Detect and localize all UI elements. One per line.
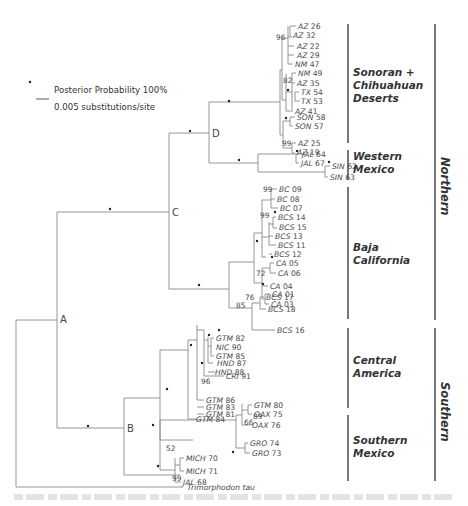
- svg-text:96: 96: [276, 33, 286, 42]
- tip-label: AZ 25: [297, 139, 321, 148]
- tip-label: GTM 80: [254, 401, 283, 410]
- svg-text:Sonoran +ChihuahuanDeserts: Sonoran +ChihuahuanDeserts: [353, 66, 423, 104]
- tip-label: BC 08: [277, 195, 300, 204]
- tip-label: NM 47: [295, 60, 319, 69]
- tip-label: HND 87: [217, 359, 247, 368]
- phylogenetic-tree-figure: Posterior Probability 100% 0.005 substit…: [0, 0, 468, 506]
- legend-scale-label: 0.005 substitutions/site: [54, 102, 155, 112]
- tip-label: SON 58: [297, 113, 326, 122]
- svg-text:99: 99: [282, 139, 292, 148]
- svg-text:52: 52: [166, 444, 175, 453]
- svg-text:SouthernMexico: SouthernMexico: [353, 434, 408, 459]
- svg-text:99: 99: [260, 211, 270, 220]
- tip-label: JAL 64: [300, 150, 326, 159]
- figure-caption-cutoff: [14, 494, 454, 500]
- tip-label: OAX 75: [254, 410, 283, 419]
- tip-label: TX 53: [301, 97, 323, 106]
- tip-label: BCS 12: [274, 250, 302, 259]
- tip-label: CA 05: [276, 259, 299, 268]
- tip-label: BC 09: [279, 185, 302, 194]
- svg-text:72: 72: [256, 269, 265, 278]
- region-labels: Sonoran +ChihuahuanDeserts WesternMexico…: [352, 66, 423, 459]
- tip-label: SON 57: [295, 122, 324, 131]
- outgroup-label: Trimorphodon tau: [187, 483, 255, 492]
- svg-text:96: 96: [201, 377, 211, 386]
- tip-label: BCS 11: [278, 241, 306, 250]
- node-label-b: B: [127, 423, 134, 434]
- svg-text:WesternMexico: WesternMexico: [353, 150, 402, 175]
- svg-text:82: 82: [283, 76, 292, 85]
- tip-label: AZ 29: [296, 51, 320, 60]
- tip-label: SIN 63: [330, 173, 355, 182]
- group-label-southern: Southern: [438, 382, 452, 442]
- legend-dot-label: Posterior Probability 100%: [54, 85, 167, 95]
- tip-label: GTM 84: [196, 415, 225, 424]
- tip-label: BCS 17: [266, 293, 294, 302]
- group-label-northern: Northern: [438, 157, 452, 216]
- svg-text:CentralAmerica: CentralAmerica: [352, 354, 401, 379]
- tip-label: AZ 22: [296, 42, 320, 51]
- tip-label: AZ 26: [297, 22, 321, 31]
- node-label-c: C: [172, 207, 179, 218]
- svg-text:99: 99: [172, 474, 182, 483]
- tip-label: MICH 70: [186, 454, 218, 463]
- tip-label: BCS 16: [277, 326, 305, 335]
- tip-label: AZ 32: [292, 31, 316, 40]
- tip-label: CA 06: [278, 269, 301, 278]
- tree-canvas: Posterior Probability 100% 0.005 substit…: [0, 0, 468, 506]
- tip-label: GRO 73: [252, 449, 281, 458]
- svg-text:76: 76: [245, 293, 255, 302]
- tip-label: GTM 82: [216, 334, 245, 343]
- tip-label: BCS 18: [268, 305, 296, 314]
- tip-label: TX 54: [301, 88, 323, 97]
- svg-text:85: 85: [236, 301, 246, 310]
- node-label-a: A: [60, 314, 67, 325]
- tip-label: BCS 15: [279, 223, 307, 232]
- tip-label: BC 07: [280, 204, 303, 213]
- tip-label: NM 49: [298, 69, 322, 78]
- tip-label: GRO 74: [250, 439, 279, 448]
- tip-label: BCS 14: [278, 213, 306, 222]
- tip-label: NIC 90: [216, 343, 241, 352]
- tip-label: CRI 91: [226, 372, 251, 381]
- tip-label: BCS 13: [275, 232, 303, 241]
- node-label-d: D: [212, 128, 220, 139]
- tip-label: OAX 76: [252, 421, 281, 430]
- svg-text:BajaCalifornia: BajaCalifornia: [353, 241, 410, 266]
- tip-label: MICH 71: [186, 467, 218, 476]
- tip-label: JAL 67: [299, 159, 325, 168]
- svg-text:99: 99: [263, 185, 273, 194]
- tip-label: AZ 35: [296, 79, 320, 88]
